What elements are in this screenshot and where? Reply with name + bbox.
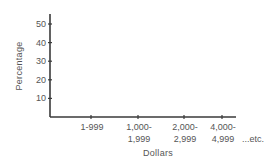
x-tick-label: 1,000-	[126, 122, 152, 132]
x-tick-label: 1-999	[80, 122, 103, 132]
x-tick-label: 2,000-	[172, 122, 198, 132]
x-axis-title: Dollars	[143, 148, 173, 158]
y-tick-label: 10	[36, 93, 46, 103]
y-tick-label: 20	[36, 75, 46, 85]
y-axis: 1020304050	[36, 14, 52, 117]
etc-label: ...etc.	[242, 134, 264, 144]
x-tick-label: 1,999	[128, 134, 151, 144]
y-tick-label: 30	[36, 56, 46, 66]
y-axis-title: Percentage	[14, 41, 24, 90]
x-tick-label: 2,999	[174, 134, 197, 144]
y-tick-label: 40	[36, 38, 46, 48]
x-axis: 1-9991,000-1,9992,000-2,9994,000-4,999	[50, 115, 236, 144]
y-tick-label: 50	[36, 19, 46, 29]
x-tick-label: 4,000-	[210, 122, 236, 132]
x-tick-label: 4,999	[212, 134, 235, 144]
chart: 1020304050 1-9991,000-1,9992,000-2,9994,…	[0, 0, 280, 161]
